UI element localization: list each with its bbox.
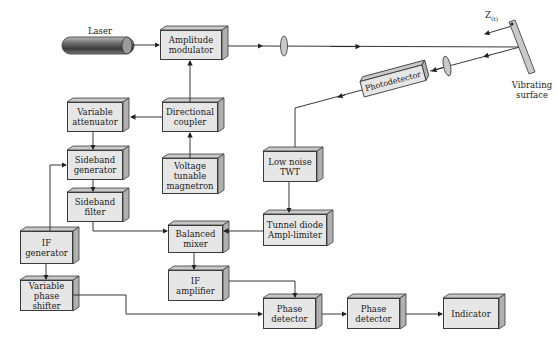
sideband-generator-block: Sidebandgenerator [67,150,123,180]
if-generator-block: IFgenerator [20,231,73,264]
phase-detector-1-block: Phasedetector [263,298,316,329]
photodetector-icon: Photodetector [359,60,430,97]
balanced-mixer-block: Balancedmixer [168,225,223,253]
phase-detector-2-block: Phasedetector [347,298,400,329]
low-noise-twt-block: Low noiseTWT [263,151,317,182]
directional-coupler-block: Directionalcoupler [162,102,218,132]
lens-2-icon [441,55,452,76]
tunnel-diode-ampl-limiter-block: Tunnel diodeAmpl-limiter [263,214,327,246]
voltage-tunable-magnetron-block: Voltagetunablemagnetron [162,158,218,194]
displacement-label: Z(t) [485,10,498,24]
variable-phase-shifter-block: Variablephase shifter [20,280,73,311]
if-amplifier-block: IFamplifier [168,270,223,301]
lens-1-icon [281,36,288,56]
vibrating-surface-label: Vibrating surface [506,80,558,100]
variable-attenuator-block: Variableattenuator [67,102,123,132]
laser-label: Laser [82,26,118,36]
indicator-block: Indicator [443,298,499,329]
laser-icon [62,37,134,54]
sideband-filter-block: Sidebandfilter [67,192,123,222]
amplitude-modulator-block: Amplitudemodulator [160,30,222,60]
